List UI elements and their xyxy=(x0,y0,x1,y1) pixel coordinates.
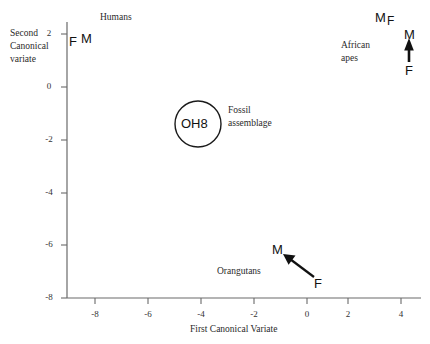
fossil-assemblage-label-line-2: assemblage xyxy=(228,119,272,129)
african-apes-male-marker-2: M xyxy=(404,28,415,41)
y-axis-title-line-2: Canonical xyxy=(10,42,49,52)
group-label-african-apes-line-2: apes xyxy=(341,54,358,64)
y-tick-label-2: 2 xyxy=(42,29,56,38)
group-label-humans: Humans xyxy=(100,13,132,23)
x-tick-label-neg4: -4 xyxy=(189,310,213,319)
orangutans-arrow xyxy=(283,254,314,277)
y-tick-label-neg6: -6 xyxy=(42,240,56,249)
y-tick-label-0: 0 xyxy=(42,82,56,91)
x-tick-label-neg8: -8 xyxy=(83,310,107,319)
orangutans-male-marker: M xyxy=(272,243,283,256)
y-tick-marks xyxy=(61,34,67,298)
y-tick-label-neg4: -4 xyxy=(42,188,56,197)
orangutans-female-marker: F xyxy=(314,277,322,290)
humans-male-marker: M xyxy=(81,32,92,45)
x-tick-label-neg6: -6 xyxy=(136,310,160,319)
y-tick-label-neg2: -2 xyxy=(42,135,56,144)
humans-female-marker: F xyxy=(69,35,77,48)
y-axis-title-line-3: variate xyxy=(10,55,36,65)
x-axis-title: First Canonical Variate xyxy=(190,325,277,335)
y-tick-label-neg8: -8 xyxy=(42,293,56,302)
plot-canvas xyxy=(0,0,430,344)
x-tick-label-4: 4 xyxy=(389,310,413,319)
y-axis-title-line-1: Second xyxy=(10,29,38,39)
group-label-orangutans: Orangutans xyxy=(217,267,261,277)
african-apes-male-marker-1: M xyxy=(375,11,386,24)
african-apes-female-marker-2: F xyxy=(405,64,413,77)
x-tick-marks xyxy=(95,298,401,304)
x-tick-label-2: 2 xyxy=(336,310,360,319)
chart-figure: Second Canonical variate 2 0 -2 -4 -6 -8… xyxy=(0,0,430,344)
oh8-label: OH8 xyxy=(181,117,208,130)
african-apes-female-marker-1: F xyxy=(387,15,394,27)
x-tick-label-neg2: -2 xyxy=(242,310,266,319)
group-label-african-apes-line-1: African xyxy=(341,41,370,51)
x-tick-label-0: 0 xyxy=(295,310,319,319)
fossil-assemblage-label-line-1: Fossil xyxy=(228,106,251,116)
